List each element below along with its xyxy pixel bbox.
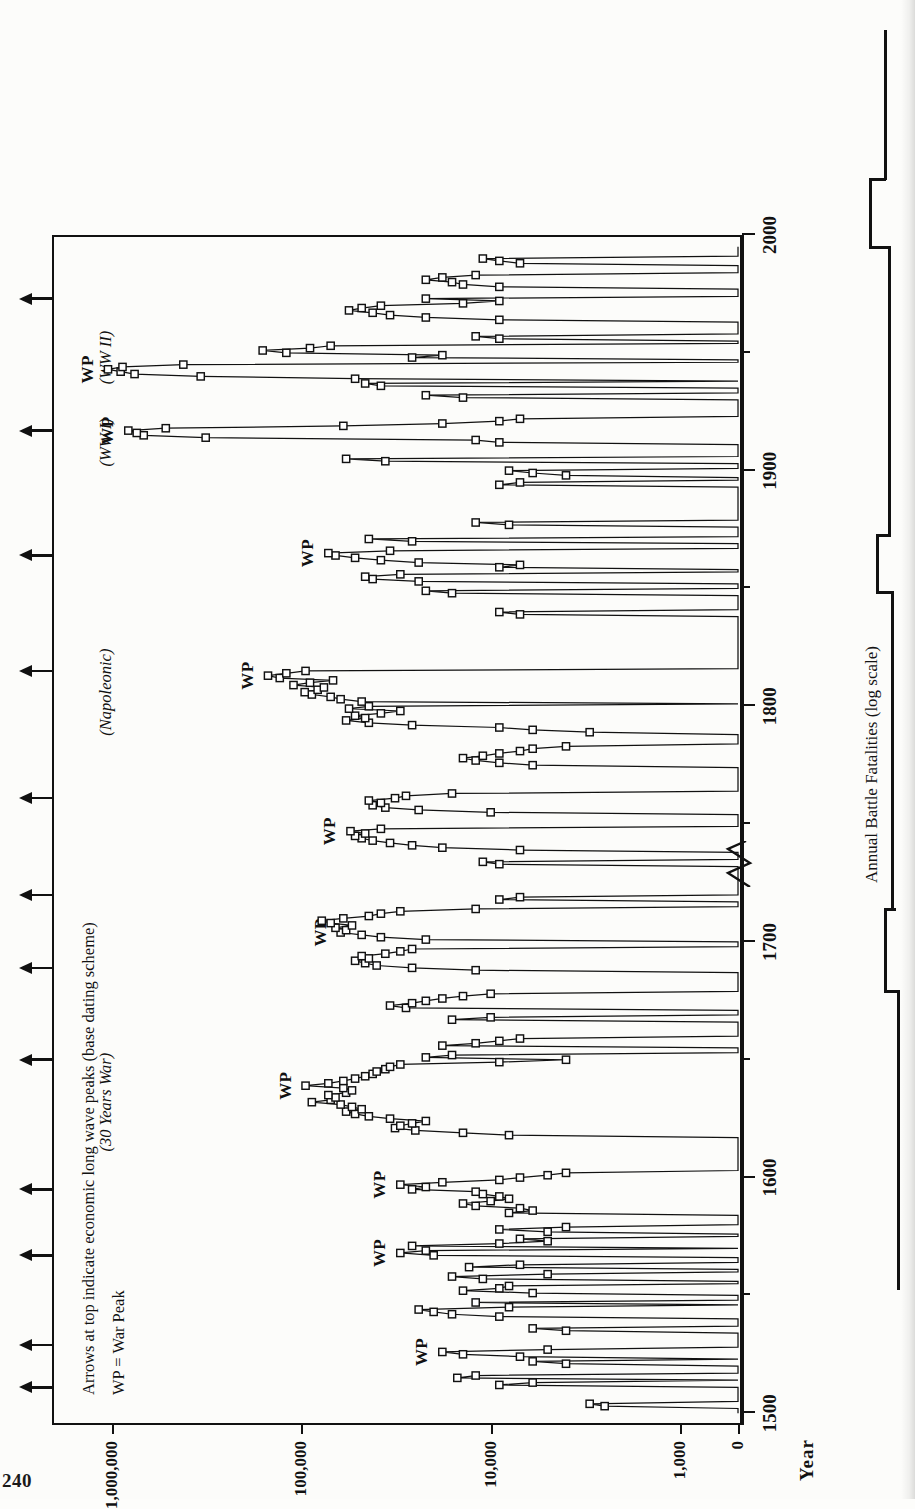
data-point-marker	[362, 573, 369, 580]
data-point-marker	[439, 1179, 446, 1186]
data-point-marker	[348, 922, 355, 929]
data-point-marker	[505, 1132, 512, 1139]
data-point-marker	[302, 667, 309, 674]
data-point-marker	[496, 257, 503, 264]
data-point-marker	[529, 762, 536, 769]
data-point-marker	[448, 1311, 455, 1318]
data-point-marker	[362, 830, 369, 837]
data-point-marker	[409, 354, 416, 361]
data-point-marker	[377, 710, 384, 717]
time-axis-tick	[742, 940, 755, 942]
data-point-marker	[496, 750, 503, 757]
data-point-marker	[348, 1087, 355, 1094]
data-point-marker	[409, 1000, 416, 1007]
data-point-marker	[329, 677, 336, 684]
data-point-marker	[365, 703, 372, 710]
data-point-marker	[496, 861, 503, 868]
data-point-marker	[479, 752, 486, 759]
data-point-marker	[472, 967, 479, 974]
data-point-marker	[337, 1101, 344, 1108]
data-point-marker	[409, 538, 416, 545]
binding-artifact	[876, 534, 879, 594]
value-axis-title: Annual Battle Fatalities (log scale)	[862, 646, 882, 883]
data-point-marker	[415, 559, 422, 566]
data-point-marker	[409, 722, 416, 729]
data-point-marker	[362, 1073, 369, 1080]
data-point-marker	[448, 1273, 455, 1280]
data-point-marker	[516, 1035, 523, 1042]
data-point-marker	[308, 1099, 315, 1106]
data-point-marker	[340, 1077, 347, 1084]
data-point-marker	[516, 1205, 523, 1212]
data-point-marker	[348, 1103, 355, 1110]
time-axis-tick-label: 1700	[759, 923, 781, 961]
data-point-marker	[516, 479, 523, 486]
data-point-marker	[365, 535, 372, 542]
data-point-marker	[459, 394, 466, 401]
data-point-marker	[472, 333, 479, 340]
data-point-marker	[472, 519, 479, 526]
value-axis-tick-label: 1,000	[670, 1441, 690, 1479]
data-point-marker	[430, 1308, 437, 1315]
time-axis-minor-tick	[742, 1058, 750, 1060]
data-point-marker	[386, 839, 393, 846]
data-point-marker	[306, 679, 313, 686]
data-point-marker	[402, 792, 409, 799]
data-point-marker	[496, 283, 503, 290]
data-point-marker	[362, 714, 369, 721]
data-point-marker	[327, 693, 334, 700]
data-point-marker	[601, 1403, 608, 1410]
data-point-marker	[397, 948, 404, 955]
data-point-marker	[496, 724, 503, 731]
data-point-marker	[516, 747, 523, 754]
binding-artifact	[884, 908, 887, 993]
data-point-marker	[529, 1289, 536, 1296]
data-point-marker	[487, 1014, 494, 1021]
data-point-marker	[340, 1084, 347, 1091]
data-point-marker	[377, 382, 384, 389]
data-point-marker	[264, 672, 271, 679]
data-point-marker	[343, 717, 350, 724]
data-point-marker	[472, 436, 479, 443]
data-point-marker	[459, 755, 466, 762]
time-axis-tick	[742, 233, 755, 235]
data-point-marker	[386, 312, 393, 319]
data-point-marker	[386, 1063, 393, 1070]
data-point-marker	[459, 993, 466, 1000]
data-point-marker	[104, 366, 111, 373]
data-point-marker	[386, 1002, 393, 1009]
data-point-marker	[459, 1351, 466, 1358]
data-point-marker	[301, 689, 308, 696]
data-point-marker	[465, 1264, 472, 1271]
data-point-marker	[479, 1190, 486, 1197]
data-point-marker	[119, 363, 126, 370]
data-point-marker	[562, 1169, 569, 1176]
data-point-marker	[391, 795, 398, 802]
data-layer	[52, 235, 742, 1425]
data-point-marker	[516, 561, 523, 568]
data-point-marker	[377, 302, 384, 309]
data-point-marker	[422, 392, 429, 399]
data-point-marker	[422, 1117, 429, 1124]
data-point-marker	[529, 1325, 536, 1332]
data-point-marker	[369, 309, 376, 316]
data-point-marker	[332, 1094, 339, 1101]
data-point-marker	[496, 1313, 503, 1320]
data-point-marker	[352, 375, 359, 382]
data-point-marker	[422, 295, 429, 302]
data-point-marker	[562, 743, 569, 750]
data-point-marker	[529, 1207, 536, 1214]
data-point-marker	[358, 698, 365, 705]
data-point-marker	[377, 557, 384, 564]
data-point-marker	[529, 726, 536, 733]
data-point-marker	[496, 1226, 503, 1233]
data-point-marker	[397, 1122, 404, 1129]
data-point-marker	[479, 858, 486, 865]
data-point-marker	[365, 955, 372, 962]
data-point-marker	[496, 564, 503, 571]
time-axis-tick	[742, 704, 755, 706]
binding-artifact	[884, 30, 887, 180]
data-point-marker	[327, 919, 334, 926]
data-point-marker	[586, 1400, 593, 1407]
